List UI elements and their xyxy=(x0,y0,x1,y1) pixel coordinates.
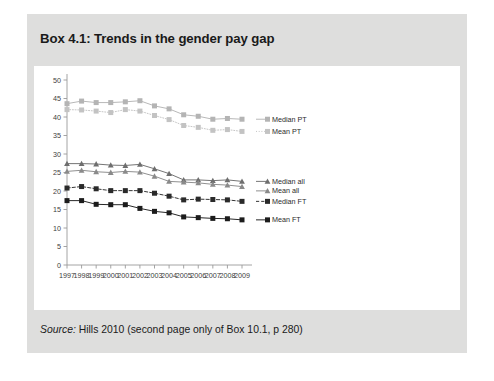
box-container: Box 4.1: Trends in the gender pay gap 05… xyxy=(27,14,467,353)
legend-label-median-pt: Median PT xyxy=(272,115,307,124)
svg-text:20: 20 xyxy=(53,187,61,196)
svg-text:5: 5 xyxy=(57,242,61,251)
svg-text:15: 15 xyxy=(53,205,61,214)
svg-text:40: 40 xyxy=(53,113,61,122)
svg-text:10: 10 xyxy=(53,224,61,233)
svg-text:50: 50 xyxy=(53,76,61,85)
svg-text:35: 35 xyxy=(53,131,61,140)
chart-panel: 05101520253035404550 1997199819992000200… xyxy=(34,66,460,310)
svg-text:25: 25 xyxy=(53,168,61,177)
legend-label-median-ft: Median FT xyxy=(272,197,307,206)
chart-series-group xyxy=(64,98,245,222)
svg-text:45: 45 xyxy=(53,94,61,103)
chart-legend: Median PTMean PTMedian allMean allMedian… xyxy=(256,115,307,225)
legend-label-mean-pt: Mean PT xyxy=(272,127,302,136)
legend-label-mean-all: Mean all xyxy=(272,186,300,195)
svg-text:0: 0 xyxy=(57,261,61,270)
gender-pay-gap-line-chart: 05101520253035404550 1997199819992000200… xyxy=(34,66,460,310)
legend-label-mean-ft: Mean FT xyxy=(272,215,301,224)
source-note: Source: Hills 2010 (second page only of … xyxy=(40,324,303,335)
x-axis: 1997199819992000200120022003200420052006… xyxy=(59,265,252,280)
svg-text:30: 30 xyxy=(53,150,61,159)
source-label: Source: xyxy=(40,324,76,335)
svg-text:2009: 2009 xyxy=(234,271,250,280)
source-text: Hills 2010 (second page only of Box 10.1… xyxy=(79,324,303,335)
box-title: Box 4.1: Trends in the gender pay gap xyxy=(40,31,274,46)
legend-label-median-all: Median all xyxy=(272,177,305,186)
